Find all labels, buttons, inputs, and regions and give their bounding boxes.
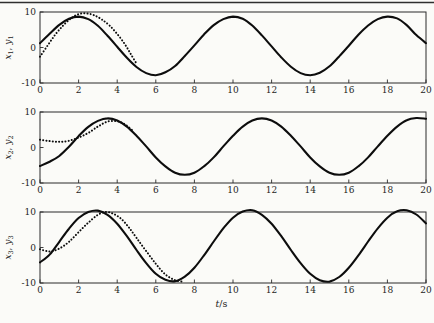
x-tick-label: 12 <box>266 85 277 95</box>
x-tick-label: 0 <box>37 85 43 95</box>
x-tick-label: 8 <box>192 85 198 95</box>
x-tick-label: 10 <box>227 85 239 95</box>
x-tick-label: 2 <box>76 85 82 95</box>
solid-curve-1 <box>40 17 426 76</box>
x-tick-label: 12 <box>266 185 277 195</box>
plot-frame-1 <box>40 12 426 83</box>
y-tick-label: 0 <box>30 43 36 53</box>
x-tick-label: 18 <box>382 285 394 295</box>
x-tick-label: 14 <box>304 185 316 195</box>
x-tick-label: 14 <box>304 85 316 95</box>
x-tick-label: 18 <box>382 185 394 195</box>
y-axis-label-1: x1, y1 <box>3 35 15 59</box>
x-tick-label: 16 <box>343 285 355 295</box>
x-tick-label: 18 <box>382 85 394 95</box>
x-tick-label: 10 <box>227 285 239 295</box>
x-tick-label: 8 <box>192 185 198 195</box>
x-tick-label: 14 <box>304 285 316 295</box>
x-tick-label: 6 <box>153 285 159 295</box>
x-tick-label: 20 <box>420 85 432 95</box>
x-tick-label: 16 <box>343 185 355 195</box>
plot-frame-2 <box>40 112 426 183</box>
dotted-curve-3 <box>40 212 183 282</box>
y-tick-label: 10 <box>25 7 37 17</box>
subplot-1: 02468101214161820100-10x1, y1 <box>3 7 432 95</box>
y-tick-label: 0 <box>30 143 36 153</box>
y-tick-label: 10 <box>25 207 37 217</box>
x-tick-label: 4 <box>114 185 120 195</box>
dotted-curve-1 <box>40 13 137 63</box>
x-tick-label: 20 <box>420 185 432 195</box>
x-tick-label: 2 <box>76 285 82 295</box>
x-tick-label: 12 <box>266 285 277 295</box>
x-tick-label: 6 <box>153 85 159 95</box>
y-tick-label: -10 <box>22 178 37 188</box>
x-tick-label: 6 <box>153 185 159 195</box>
x-tick-label: 4 <box>114 285 120 295</box>
dotted-curve-2 <box>40 121 133 142</box>
x-tick-label: 10 <box>227 185 239 195</box>
x-tick-label: 0 <box>37 185 43 195</box>
y-tick-label: -10 <box>22 78 37 88</box>
subplot-2: 02468101214161820100-10x2, y2 <box>3 107 432 195</box>
y-axis-label-2: x2, y2 <box>3 135 15 159</box>
three-subplot-chart: 02468101214161820100-10x1, y102468101214… <box>0 0 434 323</box>
x-tick-label: 2 <box>76 185 82 195</box>
y-axis-label-3: x3, y3 <box>3 235 15 259</box>
x-tick-label: 0 <box>37 285 43 295</box>
figure-page: 02468101214161820100-10x1, y102468101214… <box>0 0 434 323</box>
x-axis-label: t/s <box>215 298 227 309</box>
x-tick-label: 8 <box>192 285 198 295</box>
x-tick-label: 20 <box>420 285 432 295</box>
y-tick-label: 10 <box>25 107 37 117</box>
x-tick-label: 16 <box>343 85 355 95</box>
y-tick-label: -10 <box>22 278 37 288</box>
x-tick-label: 4 <box>114 85 120 95</box>
y-tick-label: 0 <box>30 243 36 253</box>
subplot-3: 02468101214161820100-10x3, y3t/s <box>3 207 432 309</box>
plot-frame-3 <box>40 212 426 283</box>
solid-curve-3 <box>40 210 426 282</box>
